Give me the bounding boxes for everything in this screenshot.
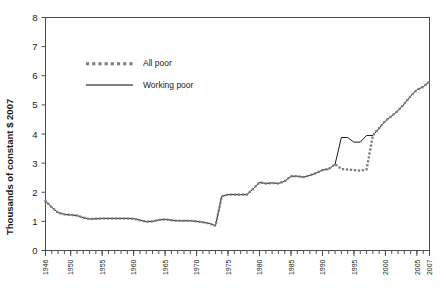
all-poor-marker — [242, 193, 244, 195]
all-poor-marker — [342, 168, 344, 170]
all-poor-marker — [381, 124, 383, 126]
all-poor-marker — [375, 130, 377, 132]
all-poor-marker — [44, 200, 46, 202]
legend-label-all-poor: All poor — [143, 58, 172, 68]
all-poor-marker — [47, 203, 49, 205]
all-poor-marker — [198, 221, 200, 223]
y-tick-marks — [42, 18, 46, 251]
y-tick-label: 5 — [32, 99, 37, 110]
all-poor-marker — [294, 175, 296, 177]
all-poor-marker — [338, 166, 340, 168]
all-poor-marker — [202, 221, 204, 223]
all-poor-marker — [230, 193, 232, 195]
legend-swatch-all-poor — [86, 62, 133, 65]
legend-marker-square — [98, 62, 101, 65]
all-poor-marker — [421, 86, 423, 88]
all-poor-marker — [424, 84, 426, 86]
all-poor-marker — [414, 90, 416, 92]
chart-container: Thousands of constant $ 2007 012345678 1… — [0, 0, 446, 297]
all-poor-marker — [87, 218, 89, 220]
y-tick-label: 3 — [32, 158, 37, 169]
all-poor-marker — [265, 182, 267, 184]
all-poor-marker — [368, 156, 370, 158]
x-tick-label: 2007 — [426, 259, 433, 275]
x-tick-label: 2005 — [414, 259, 421, 275]
all-poor-marker — [254, 185, 256, 187]
x-tick-label: 1970 — [193, 259, 200, 275]
all-poor-marker — [310, 174, 312, 176]
all-poor-marker — [335, 164, 337, 166]
all-poor-marker — [368, 152, 370, 154]
all-poor-marker — [389, 116, 391, 118]
x-tick-label: 1995 — [351, 259, 358, 275]
legend-marker-square — [86, 62, 89, 65]
all-poor-marker — [143, 220, 145, 222]
all-poor-marker — [155, 219, 157, 221]
series-working-poor — [46, 82, 430, 226]
x-tick-label: 1985 — [288, 259, 295, 275]
x-tick-label: 1950 — [67, 259, 74, 275]
all-poor-marker — [386, 118, 388, 120]
all-poor-marker — [257, 182, 259, 184]
all-poor-marker — [147, 220, 149, 222]
plot-frame — [46, 18, 430, 251]
all-poor-marker — [139, 219, 141, 221]
all-poor-marker — [68, 214, 70, 216]
all-poor-marker — [314, 172, 316, 174]
y-tick-label: 1 — [32, 216, 37, 227]
line-chart: Thousands of constant $ 2007 012345678 1… — [0, 0, 446, 297]
all-poor-marker — [373, 133, 375, 135]
y-tick-label: 6 — [32, 70, 37, 81]
all-poor-marker — [56, 211, 58, 213]
y-tick-label: 7 — [32, 41, 37, 52]
all-poor-marker — [329, 167, 331, 169]
all-poor-marker — [103, 217, 105, 219]
all-poor-marker — [392, 113, 394, 115]
all-poor-marker — [95, 218, 97, 220]
all-poor-marker — [75, 214, 77, 216]
all-poor-marker — [277, 182, 279, 184]
all-poor-marker — [53, 208, 55, 210]
all-poor-marker — [182, 220, 184, 222]
all-poor-marker — [367, 160, 369, 162]
all-poor-marker — [219, 202, 221, 204]
all-poor-marker — [99, 217, 101, 219]
all-poor-marker — [284, 180, 286, 182]
legend-label-working-poor: Working poor — [143, 80, 194, 90]
all-poor-marker — [269, 182, 271, 184]
all-poor-marker — [406, 99, 408, 101]
all-poor-marker — [238, 193, 240, 195]
all-poor-marker — [427, 81, 429, 83]
all-poor-marker — [409, 96, 411, 98]
all-poor-marker — [350, 169, 352, 171]
all-poor-marker — [249, 191, 251, 193]
x-tick-label: 1975 — [225, 259, 232, 275]
all-poor-marker — [119, 217, 121, 219]
all-poor-marker — [371, 137, 373, 139]
all-poor-marker — [210, 223, 212, 225]
all-poor-marker — [123, 217, 125, 219]
all-poor-marker — [321, 169, 323, 171]
all-poor-marker — [317, 171, 319, 173]
all-poor-marker — [222, 195, 224, 197]
all-poor-marker — [135, 218, 137, 220]
all-poor-marker — [290, 175, 292, 177]
x-tick-label: 1980 — [256, 259, 263, 275]
all-poor-marker — [273, 182, 275, 184]
all-poor-marker — [226, 194, 228, 196]
all-poor-marker — [401, 105, 403, 107]
all-poor-marker — [302, 176, 304, 178]
all-poor-marker — [194, 220, 196, 222]
x-tick-labels: 1946195019551960196519701975198019851990… — [42, 259, 433, 275]
all-poor-marker — [246, 193, 248, 195]
all-poor-marker — [115, 217, 117, 219]
x-tick-label: 2000 — [382, 259, 389, 275]
x-tick-label: 1960 — [130, 259, 137, 275]
all-poor-marker — [218, 210, 220, 212]
all-poor-marker — [346, 168, 348, 170]
all-poor-marker — [306, 175, 308, 177]
all-poor-marker — [79, 216, 81, 218]
all-poor-marker — [214, 224, 216, 226]
all-poor-marker — [218, 206, 220, 208]
legend-marker-square — [129, 62, 132, 65]
